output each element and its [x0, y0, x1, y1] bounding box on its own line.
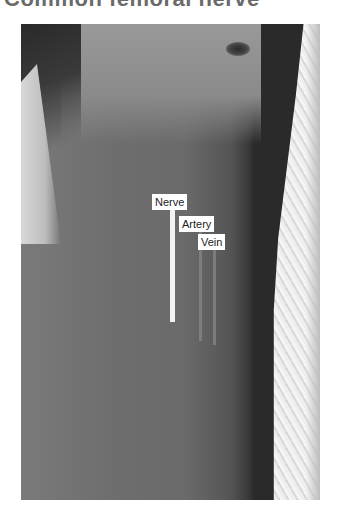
vein-label: Vein — [198, 234, 225, 250]
artery-label: Artery — [179, 216, 214, 232]
anatomy-photo: Nerve Artery Vein — [21, 24, 320, 500]
nerve-line — [170, 210, 175, 322]
nerve-label: Nerve — [152, 194, 187, 210]
vein-line — [213, 250, 216, 345]
navel — [226, 42, 250, 56]
figure-title: Common femoral nerve — [4, 0, 260, 12]
towel-edge — [306, 24, 320, 500]
